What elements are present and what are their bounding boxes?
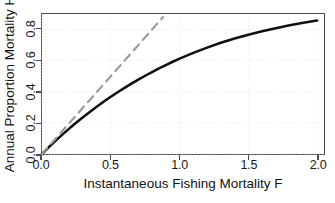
y-tick-label-4: 0.8 — [24, 20, 38, 37]
y-tick-label-0: 0.0 — [24, 147, 38, 164]
x-tick-label-1: 0.5 — [102, 158, 119, 172]
y-tick-label-1: 0.2 — [24, 115, 38, 132]
x-tick-label-3: 1.5 — [240, 158, 257, 172]
y-tick-label-2: 0.4 — [24, 83, 38, 100]
x-tick-label-4: 2.0 — [310, 158, 327, 172]
series-line-0 — [42, 21, 317, 154]
plot-area — [41, 13, 325, 155]
plot-svg — [42, 14, 324, 154]
gridlines — [42, 14, 324, 154]
series-line-1 — [42, 17, 163, 154]
y-tick-label-3: 0.6 — [24, 52, 38, 69]
y-axis-title: Annual Proportion Mortality H — [2, 0, 17, 172]
x-tick-label-2: 1.0 — [171, 158, 188, 172]
x-axis-title: Instantaneous Fishing Mortality F — [84, 176, 283, 191]
chart-figure: 0.00.51.01.52.0 0.00.20.40.60.8 Instanta… — [0, 0, 335, 203]
